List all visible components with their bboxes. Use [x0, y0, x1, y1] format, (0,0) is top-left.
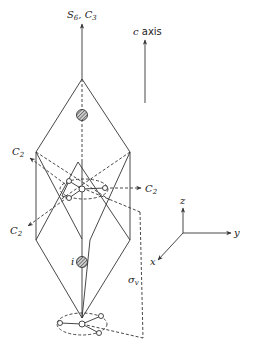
- coordinate-axes: z y x: [150, 195, 240, 267]
- ligand-atom: [58, 321, 63, 326]
- central-atom: [79, 186, 85, 192]
- y-axis-label: y: [233, 227, 240, 238]
- sigma-v-label: σv: [128, 274, 139, 287]
- ligand-atom: [103, 186, 108, 191]
- c-axis-indicator: c axis: [133, 26, 162, 103]
- cell-inner-edge-upper: [36, 162, 130, 240]
- c2-upper-left-label: C2: [12, 146, 25, 159]
- c2-lower-left-arrow: [28, 197, 68, 226]
- c2-axes: C2 C2 C2: [10, 146, 158, 238]
- inversion-center-atom: [77, 257, 88, 268]
- ligand-atom: [99, 314, 104, 319]
- ligand-atom: [67, 196, 72, 201]
- bottom-central-atom: [79, 321, 85, 327]
- s6-c3-label: S6, C3: [67, 9, 97, 22]
- z-axis-label: z: [179, 195, 186, 206]
- main-symmetry-axis: S6, C3: [67, 9, 97, 79]
- rhombohedron-cell: [36, 79, 143, 338]
- inversion-center-label: i: [71, 256, 74, 267]
- bond: [82, 188, 105, 189]
- mirror-plane-bottom-edge: [82, 324, 143, 338]
- upper-hatched-atom: [77, 110, 88, 121]
- symmetry-diagram: S6, C3 c axis C2 C2 C2: [0, 0, 253, 352]
- c2-lower-left-label: C2: [10, 225, 23, 238]
- c2-right-label: C2: [145, 183, 158, 196]
- ligand-atom: [97, 331, 102, 336]
- mirror-plane-top-edge: [82, 188, 140, 212]
- x-axis-arrow: [158, 233, 183, 260]
- ligand-atom: [67, 179, 72, 184]
- c-axis-label: c axis: [133, 26, 162, 37]
- mirror-plane-right-edge: [140, 212, 143, 338]
- c2-upper-left-arrow: [30, 158, 65, 184]
- x-axis-label: x: [150, 256, 156, 267]
- central-atom-cluster: [60, 179, 108, 201]
- inversion-center: i: [71, 256, 88, 268]
- cell-inner-edge-right: [82, 152, 130, 318]
